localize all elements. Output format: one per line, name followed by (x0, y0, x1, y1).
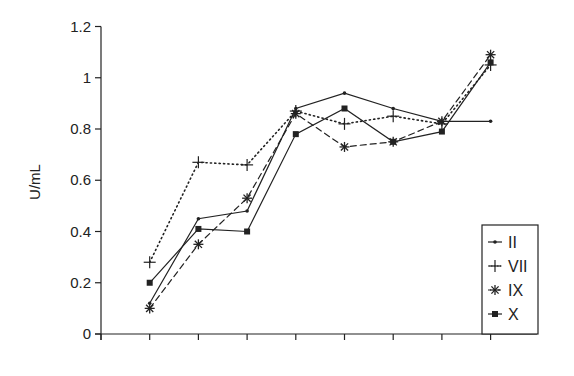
series-layer (144, 50, 497, 314)
square-marker-icon (293, 131, 299, 137)
series-x (147, 59, 494, 285)
plus-marker-icon (241, 159, 253, 171)
dot-marker-icon (391, 107, 395, 111)
dot-marker-icon (343, 91, 347, 95)
square-marker-icon (147, 280, 153, 286)
square-marker-icon (390, 139, 396, 145)
legend: IIVIIIXX (482, 225, 538, 334)
square-marker-icon (342, 106, 348, 112)
square-marker-icon (492, 311, 498, 317)
dot-marker-icon (489, 120, 493, 124)
y-tick-label: 0.6 (70, 171, 91, 188)
plus-marker-icon (192, 156, 204, 168)
asterisk-marker-icon (193, 239, 203, 249)
y-tick-label: 1.2 (70, 18, 91, 35)
dot-marker-icon (245, 209, 249, 213)
y-axis-label: U/mL (26, 164, 43, 200)
square-marker-icon (195, 226, 201, 232)
square-marker-icon (244, 229, 250, 235)
y-tick-label: 0.2 (70, 274, 91, 291)
legend-label: X (508, 306, 519, 323)
x-axis (95, 334, 537, 340)
series-line (150, 62, 491, 282)
legend-label: IX (508, 282, 523, 299)
plus-marker-icon (339, 118, 351, 130)
asterisk-marker-icon (437, 116, 447, 126)
asterisk-marker-icon (490, 285, 500, 295)
asterisk-marker-icon (340, 142, 350, 152)
legend-label: VII (508, 258, 528, 275)
series-ix (145, 50, 496, 314)
asterisk-marker-icon (145, 303, 155, 313)
line-chart: 00.20.40.60.811.2 U/mL IIVIIIXX (0, 0, 574, 376)
y-tick-label: 0.4 (70, 223, 91, 240)
dot-marker-icon (197, 217, 201, 221)
y-tick-label: 1 (83, 69, 91, 86)
asterisk-marker-icon (242, 193, 252, 203)
plus-marker-icon (144, 256, 156, 268)
asterisk-marker-icon (291, 109, 301, 119)
chart-canvas: 00.20.40.60.811.2 U/mL IIVIIIXX (0, 0, 574, 376)
legend-label: II (508, 234, 517, 251)
y-tick-label: 0 (83, 325, 91, 342)
square-marker-icon (439, 129, 445, 135)
dot-marker-icon (493, 240, 497, 244)
asterisk-marker-icon (486, 50, 496, 60)
y-tick-label: 0.8 (70, 120, 91, 137)
series-line (150, 55, 491, 309)
series-vii (144, 59, 497, 268)
y-axis: 00.20.40.60.811.2 (70, 18, 101, 343)
series-line (150, 65, 491, 262)
square-marker-icon (488, 59, 494, 65)
plus-marker-icon (387, 110, 399, 122)
